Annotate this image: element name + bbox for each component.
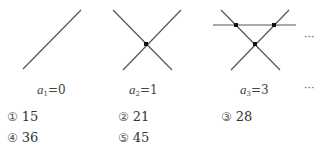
option-value: 21	[133, 109, 150, 124]
option-value: 45	[133, 130, 150, 143]
option-marker: ⑤	[118, 131, 129, 143]
label-value: =1	[140, 83, 158, 97]
figure-1-one-line	[23, 10, 81, 69]
figure-1-label: a1=0	[37, 83, 66, 101]
figure-continuation-ellipsis: ···	[304, 31, 315, 44]
label-value: =3	[251, 83, 269, 97]
figure-3-label: a3=3	[240, 83, 269, 101]
option-value: 36	[22, 130, 39, 143]
figure-3-intersection-point	[234, 23, 238, 27]
option-value: 15	[22, 109, 39, 124]
figure-2-intersection-point	[144, 42, 148, 46]
answer-option-4[interactable]: ④36	[7, 130, 38, 143]
label-continuation-ellipsis: ···	[304, 82, 315, 95]
answer-option-2[interactable]: ②21	[118, 109, 149, 125]
label-value: =0	[48, 83, 66, 97]
line-diagrams	[0, 0, 334, 80]
option-value: 28	[236, 109, 253, 124]
option-marker: ①	[7, 110, 18, 124]
figure-2-two-lines	[113, 10, 181, 70]
figure-2-label: a2=1	[129, 83, 158, 101]
answer-option-1[interactable]: ①15	[7, 109, 38, 125]
figure-3-intersection-point	[253, 42, 257, 46]
figure-3-intersection-point	[272, 23, 276, 27]
answer-option-5[interactable]: ⑤45	[118, 130, 149, 143]
option-marker: ④	[7, 131, 18, 143]
option-marker: ③	[221, 110, 232, 124]
answer-option-3[interactable]: ③28	[221, 109, 252, 125]
figure-3-three-lines	[213, 10, 296, 70]
option-marker: ②	[118, 110, 129, 124]
